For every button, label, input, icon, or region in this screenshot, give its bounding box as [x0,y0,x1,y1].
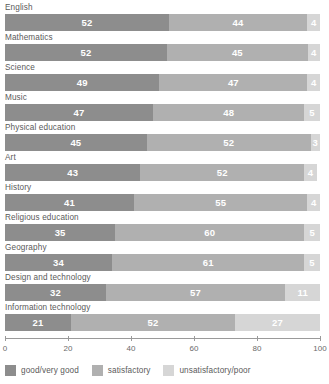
bar-segment: 47 [5,104,153,121]
segment-value: 21 [33,318,44,328]
segment-value: 32 [50,288,61,298]
axis-line [5,338,320,339]
chart-row: Religious education35605 [5,213,320,243]
row-label: Music [5,93,320,104]
segment-value: 52 [81,48,92,58]
bar-segment: 4 [304,164,317,181]
chart-row: Mathematics52454 [5,33,320,63]
row-label: History [5,183,320,194]
bar-segment: 45 [5,134,147,151]
row-label: Design and technology [5,273,320,284]
stacked-bar: 41554 [5,194,320,211]
bar-segment: 5 [304,104,320,121]
axis-tick-label: 40 [127,344,136,353]
chart-legend: good/very goodsatisfactoryunsatisfactory… [5,363,324,377]
axis-tick [257,336,258,341]
stacked-bar: 325711 [5,284,320,301]
stacked-bar: 45523 [5,134,320,151]
axis-tick-label: 80 [253,344,262,353]
segment-value: 45 [232,48,243,58]
chart-row: Information technology215227 [5,303,320,333]
bar-segment: 52 [140,164,304,181]
legend-swatch-icon [92,365,103,376]
segment-value: 4 [308,168,313,178]
legend-item: good/very good [5,365,79,376]
bar-segment: 52 [147,134,311,151]
segment-value: 47 [74,108,85,118]
chart-row: Science49474 [5,63,320,93]
stacked-bar: 215227 [5,314,320,331]
axis-tick-label: 20 [64,344,73,353]
row-label: Geography [5,243,320,254]
legend-label: unsatisfactory/poor [179,366,250,375]
axis-tick [320,336,321,341]
stacked-bar: 34615 [5,254,320,271]
bar-segment: 43 [5,164,140,181]
bar-segment: 57 [106,284,286,301]
row-label: English [5,3,320,14]
x-axis: 020406080100 [5,338,320,360]
chart-row: History41554 [5,183,320,213]
chart-row: Physical education45523 [5,123,320,153]
segment-value: 27 [272,318,283,328]
row-label: Physical education [5,123,320,134]
row-label: Art [5,153,320,164]
chart-row: Music47485 [5,93,320,123]
segment-value: 60 [204,228,215,238]
segment-value: 55 [215,198,226,208]
stacked-bar-chart: English52444Mathematics52454Science49474… [0,0,329,384]
stacked-bar: 52444 [5,14,320,31]
segment-value: 4 [311,198,316,208]
segment-value: 5 [309,228,314,238]
segment-value: 57 [190,288,201,298]
bar-segment: 34 [5,254,112,271]
segment-value: 43 [67,168,78,178]
axis-tick-label: 60 [190,344,199,353]
stacked-bar: 52454 [5,44,320,61]
stacked-bar: 47485 [5,104,320,121]
bar-segment: 61 [112,254,304,271]
bar-segment: 45 [167,44,307,61]
bar-segment: 5 [304,254,320,271]
axis-tick [5,336,6,341]
segment-value: 3 [313,138,318,148]
legend-item: satisfactory [92,365,151,376]
stacked-bar: 35605 [5,224,320,241]
bar-segment: 49 [5,74,159,91]
segment-value: 52 [148,318,159,328]
chart-rows: English52444Mathematics52454Science49474… [5,3,320,333]
segment-value: 61 [203,258,214,268]
bar-segment: 52 [71,314,235,331]
axis-tick [194,336,195,341]
bar-segment: 4 [307,74,320,91]
segment-value: 48 [223,108,234,118]
axis-tick-label: 0 [3,344,7,353]
segment-value: 5 [309,108,314,118]
segment-value: 4 [311,18,316,28]
chart-row: Design and technology325711 [5,273,320,303]
stacked-bar: 49474 [5,74,320,91]
bar-segment: 47 [159,74,307,91]
row-label: Science [5,63,320,74]
stacked-bar: 43524 [5,164,320,181]
bar-segment: 60 [115,224,304,241]
segment-value: 11 [297,288,307,298]
segment-value: 4 [311,48,316,58]
bar-segment: 27 [235,314,320,331]
bar-segment: 32 [5,284,106,301]
legend-label: good/very good [21,366,79,375]
segment-value: 52 [81,18,92,28]
bar-segment: 4 [308,44,320,61]
bar-segment: 3 [311,134,320,151]
chart-row: Art43524 [5,153,320,183]
axis-tick [131,336,132,341]
segment-value: 44 [233,18,244,28]
axis-tick-label: 100 [313,344,326,353]
segment-value: 47 [228,78,239,88]
bar-segment: 35 [5,224,115,241]
legend-label: satisfactory [108,366,151,375]
bar-segment: 48 [153,104,304,121]
row-label: Mathematics [5,33,320,44]
segment-value: 4 [311,78,316,88]
row-label: Religious education [5,213,320,224]
